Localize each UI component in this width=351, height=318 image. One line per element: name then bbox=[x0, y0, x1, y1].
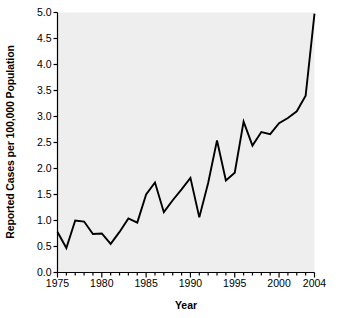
x-tick-label: 1980 bbox=[82, 278, 122, 289]
x-tick-label: 1995 bbox=[215, 278, 255, 289]
y-tick-label: 0.0 bbox=[18, 267, 52, 278]
y-tick-label: 0.5 bbox=[18, 241, 52, 252]
x-tick-label: 1975 bbox=[38, 278, 78, 289]
x-tick-label: 2004 bbox=[295, 278, 335, 289]
line-chart-figure: Reported Cases per 100,000 Population 0.… bbox=[0, 0, 351, 318]
y-tick-label: 4.0 bbox=[18, 59, 52, 70]
y-tick-label: 3.0 bbox=[18, 111, 52, 122]
x-tick-label: 1990 bbox=[170, 278, 210, 289]
y-tick-label: 4.5 bbox=[18, 33, 52, 44]
x-tick-label: 1985 bbox=[126, 278, 166, 289]
x-axis-label: Year bbox=[57, 299, 315, 311]
y-tick-label: 2.5 bbox=[18, 137, 52, 148]
plot-canvas bbox=[0, 0, 351, 318]
x-tick-label: 2000 bbox=[259, 278, 299, 289]
y-tick-label: 5.0 bbox=[18, 7, 52, 18]
y-tick-label: 1.5 bbox=[18, 189, 52, 200]
y-tick-label: 1.0 bbox=[18, 215, 52, 226]
y-tick-label: 3.5 bbox=[18, 85, 52, 96]
y-tick-label: 2.0 bbox=[18, 163, 52, 174]
